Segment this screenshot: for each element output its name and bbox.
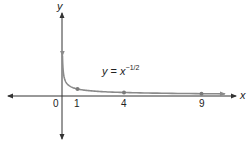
data-point (76, 87, 80, 91)
x-tick-0: 0 (53, 99, 59, 109)
x-tick-1: 1 (74, 99, 80, 109)
equation-label: y = x−1/2 (102, 64, 139, 77)
equation-var: y (102, 65, 108, 77)
data-point (122, 91, 126, 95)
equation-equals: = (111, 65, 117, 77)
x-tick-9: 9 (199, 99, 205, 109)
equation-exponent: −1/2 (126, 64, 140, 71)
y-axis-label: y (57, 1, 63, 12)
data-point (200, 92, 204, 96)
x-tick-4: 4 (121, 99, 127, 109)
x-axis-label: x (240, 90, 246, 101)
curve-x-power-neg-half (62, 56, 224, 94)
